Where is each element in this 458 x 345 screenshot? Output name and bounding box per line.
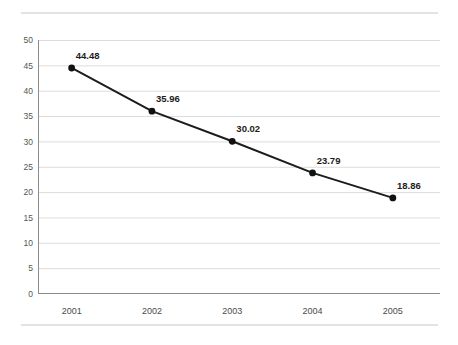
x-axis-tick-label: 2002 — [142, 306, 162, 316]
data-point-marker — [149, 108, 156, 115]
x-axis-tick-label: 2003 — [222, 306, 242, 316]
x-axis-tick-label: 2004 — [303, 306, 323, 316]
x-axis-tick-label: 2005 — [383, 306, 403, 316]
data-value-label: 35.96 — [156, 93, 180, 104]
line-chart-plot: 05101520253035404550 2001200220032004200… — [0, 0, 458, 345]
data-value-labels: 44.4835.9630.0223.7918.86 — [76, 50, 421, 191]
data-point-markers — [68, 65, 396, 202]
data-value-label: 23.79 — [317, 155, 341, 166]
y-axis-tick-label: 40 — [24, 86, 34, 96]
data-point-marker — [68, 65, 75, 72]
y-axis-tick-label: 35 — [24, 111, 34, 121]
x-axis-tick-labels: 20012002200320042005 — [62, 306, 403, 316]
data-value-label: 44.48 — [76, 50, 100, 61]
y-axis-tick-label: 20 — [24, 187, 34, 197]
data-value-label: 18.86 — [397, 180, 421, 191]
data-series-line — [72, 68, 393, 198]
y-axis-tick-labels: 05101520253035404550 — [24, 35, 34, 299]
chart-figure: 05101520253035404550 2001200220032004200… — [0, 0, 458, 345]
y-axis-tick-label: 25 — [24, 162, 34, 172]
data-value-label: 30.02 — [236, 123, 260, 134]
gridline-group — [39, 41, 441, 269]
data-point-marker — [309, 169, 316, 176]
x-axis-tick-label: 2001 — [62, 306, 82, 316]
y-axis-tick-label: 50 — [24, 35, 34, 45]
y-axis-tick-label: 0 — [28, 289, 33, 299]
y-axis-tick-label: 30 — [24, 137, 34, 147]
y-axis-tick-label: 45 — [24, 61, 34, 71]
data-point-marker — [229, 138, 236, 145]
y-axis-tick-label: 15 — [24, 213, 34, 223]
y-axis-tick-label: 5 — [28, 263, 33, 273]
y-axis-tick-label: 10 — [24, 238, 34, 248]
data-point-marker — [389, 194, 396, 201]
